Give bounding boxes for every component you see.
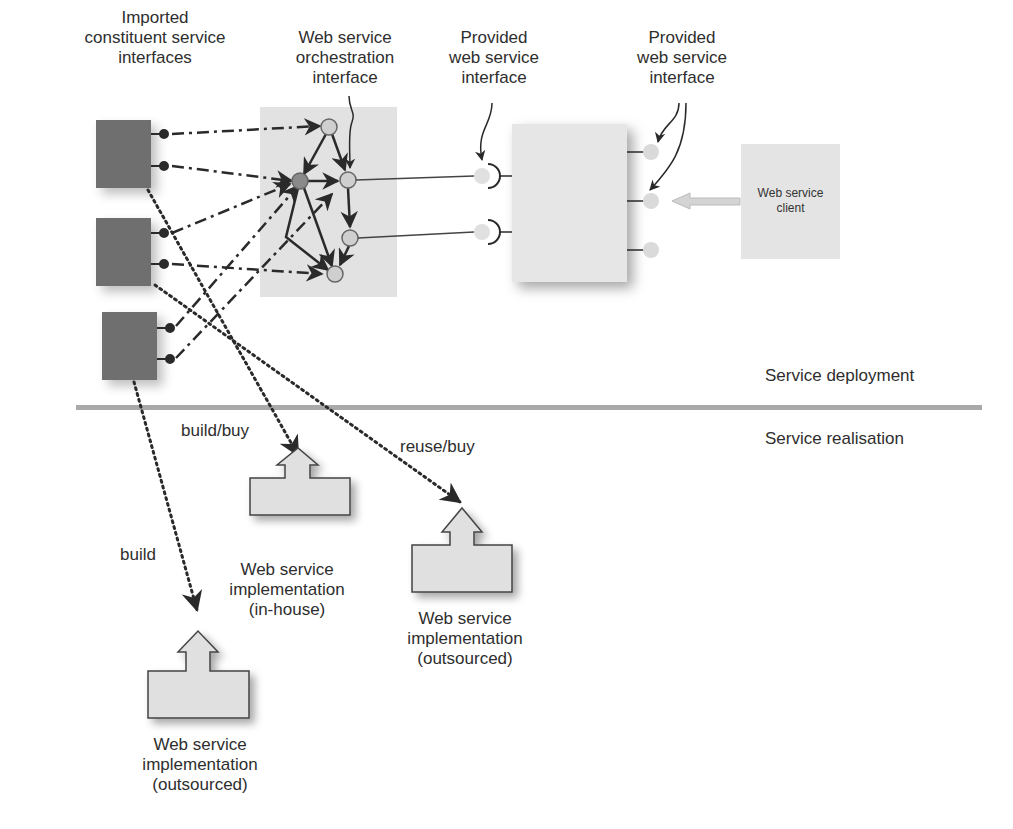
orchestration-to-provider-lines [356, 176, 474, 238]
realisation-dotted-arrows [134, 190, 460, 610]
client-to-interface-arrow [672, 193, 740, 209]
callout-arrows [349, 96, 686, 190]
dash-dot-connectors [172, 126, 332, 358]
implementation-outsourced-left-shape [148, 631, 249, 718]
diagram-connectors [0, 0, 1013, 829]
imported-interface-sockets [151, 130, 174, 363]
provided-interface-left-sockets [474, 164, 512, 244]
implementation-outsourced-right-shape [412, 508, 512, 592]
orchestration-flow-arrows [286, 134, 350, 270]
provided-interface-right-lollipops [627, 144, 659, 258]
implementation-in-house-shape [250, 448, 350, 515]
